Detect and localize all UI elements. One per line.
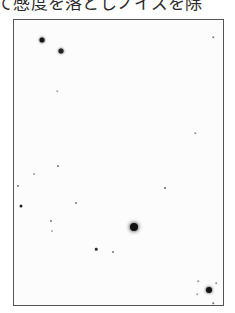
star-dot xyxy=(51,230,53,232)
star-dot xyxy=(56,90,58,92)
star-dot xyxy=(197,280,199,282)
star-dot xyxy=(33,173,35,175)
star-dot xyxy=(194,132,196,134)
caption-text: て感度を落としノイズを除 xyxy=(0,0,235,13)
star-dot xyxy=(112,251,114,253)
star-dot xyxy=(57,165,59,167)
star-dot xyxy=(196,293,198,295)
star-dot xyxy=(212,302,214,304)
star-dot xyxy=(75,202,77,204)
star-field-photo xyxy=(13,19,224,306)
star-dot xyxy=(59,49,64,54)
star-dot xyxy=(130,223,138,231)
star-dot xyxy=(17,185,19,187)
star-dot xyxy=(164,187,166,189)
star-dot xyxy=(95,248,98,251)
star-dot xyxy=(50,220,52,222)
star-dot xyxy=(40,38,45,43)
star-dot xyxy=(215,282,217,284)
star-dot xyxy=(212,36,214,38)
star-dot xyxy=(206,287,212,293)
star-dot xyxy=(20,205,23,208)
